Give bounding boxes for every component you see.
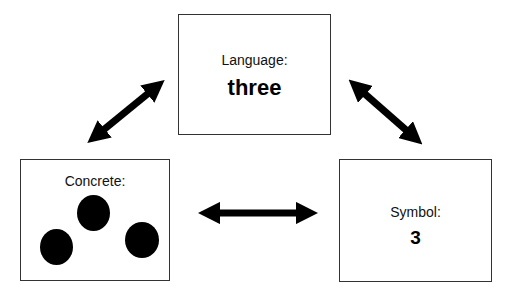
concrete-dot-icon bbox=[40, 229, 73, 265]
concrete-dot-icon bbox=[125, 222, 159, 258]
language-box: Language: three bbox=[178, 14, 331, 135]
concrete-dot-icon bbox=[77, 195, 110, 231]
arrow-concrete-language bbox=[96, 87, 156, 136]
arrow-language-symbol bbox=[357, 87, 414, 137]
symbol-label: Symbol: bbox=[340, 204, 491, 220]
symbol-box: Symbol: 3 bbox=[339, 159, 492, 282]
symbol-value: 3 bbox=[340, 227, 491, 249]
language-value: three bbox=[179, 75, 330, 101]
concrete-label: Concrete: bbox=[21, 173, 169, 189]
concrete-box: Concrete: bbox=[20, 159, 170, 281]
language-label: Language: bbox=[179, 52, 330, 68]
